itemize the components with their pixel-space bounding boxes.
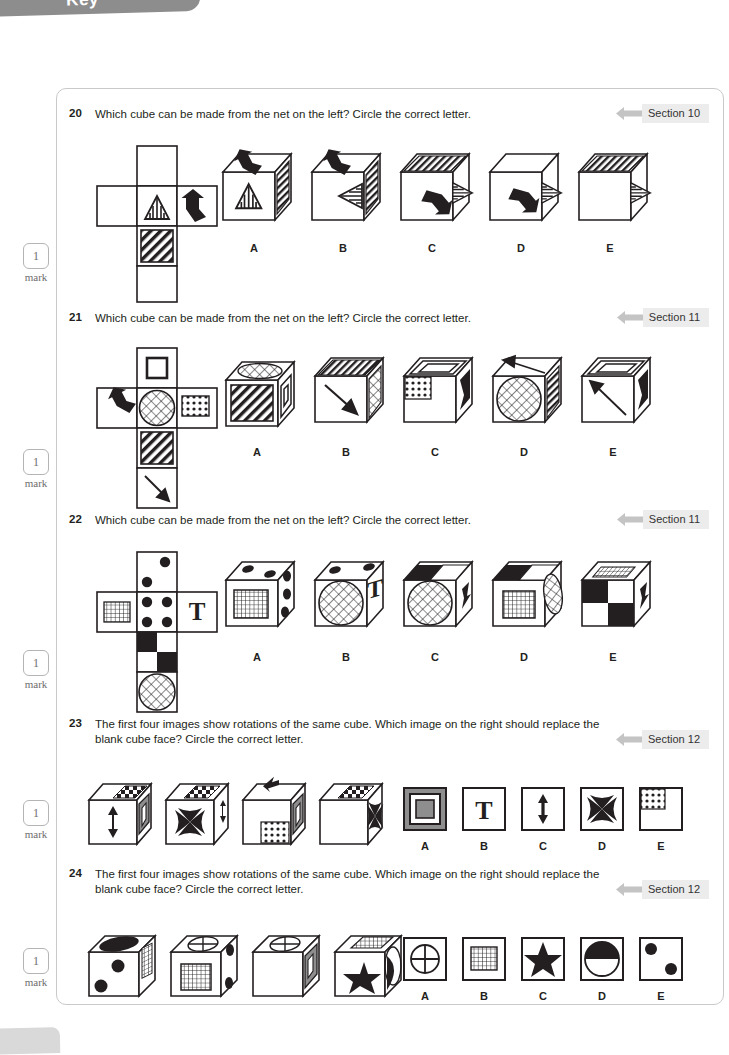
question-23-cube-1	[85, 778, 165, 856]
question-24-number: 24	[69, 867, 82, 879]
question-21: 21 Which cube can be made from the net o…	[57, 311, 723, 498]
question-20: 20 Which cube can be made from the net o…	[57, 107, 723, 297]
question-23-figures: T A B C	[57, 746, 723, 876]
question-24-choice-a[interactable]	[402, 936, 448, 982]
question-23-cube-2	[162, 778, 242, 856]
question-20-figures: A B C D E	[57, 122, 723, 297]
question-24-cube-2	[167, 928, 252, 1008]
question-21-section-label: Section 11	[643, 308, 709, 327]
question-20-net	[77, 144, 237, 304]
option-letter-d: D	[520, 446, 528, 458]
question-23-choice-b[interactable]: T	[461, 786, 507, 832]
question-24: 24 The first four images show rotations …	[57, 867, 723, 1026]
question-20-header: 20 Which cube can be made from the net o…	[57, 107, 723, 122]
question-23-choice-d[interactable]	[579, 786, 625, 832]
page-header-tab-label: Key	[66, 0, 99, 11]
question-20-choice-a[interactable]	[217, 148, 305, 230]
option-letter-b: B	[342, 651, 350, 663]
question-23-number: 23	[69, 717, 82, 729]
mark-label: mark	[13, 976, 59, 988]
option-letter-d: D	[517, 242, 525, 254]
option-letter-a: A	[253, 651, 261, 663]
question-22-text: Which cube can be made from the net on t…	[95, 513, 615, 528]
question-20-section-tag: Section 10	[616, 104, 709, 123]
question-22-section-label: Section 11	[643, 510, 709, 529]
question-22: 22 Which cube can be made from the net o…	[57, 513, 723, 700]
option-letter-d: D	[598, 990, 606, 1002]
question-24-header: 24 The first four images show rotations …	[57, 867, 723, 896]
arrow-left-icon	[616, 882, 642, 897]
question-24-choice-e[interactable]	[638, 936, 684, 982]
mark-label: mark	[13, 828, 59, 840]
option-letter-b: B	[339, 242, 347, 254]
svg-text:T: T	[475, 796, 492, 825]
question-22-choice-e[interactable]	[576, 554, 664, 636]
mark-number: 1	[23, 449, 49, 475]
option-letter-c: C	[539, 840, 547, 852]
question-23-choice-e[interactable]	[638, 786, 684, 832]
mark-number: 1	[23, 800, 49, 826]
question-22-choice-b[interactable]: T	[309, 554, 397, 636]
question-24-choice-d[interactable]	[579, 936, 625, 982]
question-20-choice-c[interactable]	[395, 148, 483, 230]
question-23-choice-c[interactable]	[520, 786, 566, 832]
mark-number: 1	[23, 243, 49, 269]
question-20-number: 20	[69, 107, 82, 119]
question-21-choice-c[interactable]	[398, 350, 486, 432]
question-20-section-label: Section 10	[642, 104, 709, 123]
option-letter-d: D	[598, 840, 606, 852]
question-24-figures: A B C D E	[57, 896, 723, 1026]
question-23-cube-3	[239, 778, 319, 856]
question-21-figures: A B C D E	[57, 326, 723, 498]
question-21-header: 21 Which cube can be made from the net o…	[57, 311, 723, 326]
page-footer-tab	[0, 1027, 60, 1055]
option-letter-e: E	[609, 651, 616, 663]
question-22-header: 22 Which cube can be made from the net o…	[57, 513, 723, 528]
question-22-number: 22	[69, 513, 82, 525]
question-20-choice-b[interactable]	[306, 148, 394, 230]
option-letter-b: B	[480, 840, 488, 852]
question-23-cube-4	[316, 778, 396, 856]
question-panel: 20 Which cube can be made from the net o…	[56, 88, 724, 1005]
question-24-cube-3	[249, 928, 334, 1008]
question-23-header: 23 The first four images show rotations …	[57, 717, 723, 746]
option-letter-a: A	[250, 242, 258, 254]
question-21-text: Which cube can be made from the net on t…	[95, 311, 615, 326]
question-22-choice-a[interactable]	[220, 554, 308, 636]
option-letter-c: C	[431, 446, 439, 458]
question-22-figures: T	[57, 528, 723, 700]
option-letter-e: E	[606, 242, 613, 254]
question-22-choice-c[interactable]	[398, 554, 486, 636]
question-20-choice-d[interactable]	[484, 148, 572, 230]
option-letter-e: E	[609, 446, 616, 458]
mark-label: mark	[13, 271, 59, 283]
question-21-choice-d[interactable]	[487, 350, 575, 432]
svg-text:T: T	[189, 598, 206, 625]
option-letter-c: C	[428, 242, 436, 254]
arrow-left-icon	[617, 512, 643, 527]
mark-number: 1	[23, 948, 49, 974]
mark-number: 1	[23, 650, 49, 676]
mark-label: mark	[13, 477, 59, 489]
arrow-left-icon	[616, 732, 642, 747]
question-20-choice-e[interactable]	[573, 148, 661, 230]
question-21-choice-b[interactable]	[309, 350, 397, 432]
question-23-choice-a[interactable]	[402, 786, 448, 832]
question-22-choice-d[interactable]	[487, 554, 575, 636]
mark-label: mark	[13, 678, 59, 690]
question-21-choice-e[interactable]	[576, 350, 664, 432]
question-23-text: The first four images show rotations of …	[95, 717, 615, 746]
question-24-choice-b[interactable]	[461, 936, 507, 982]
question-21-choice-a[interactable]	[220, 354, 308, 436]
mark-chip: 1 mark	[13, 948, 59, 988]
option-letter-a: A	[421, 990, 429, 1002]
question-21-section-tag: Section 11	[617, 308, 709, 327]
option-letter-b: B	[480, 990, 488, 1002]
option-letter-c: C	[539, 990, 547, 1002]
question-24-cube-1	[85, 928, 170, 1008]
option-letter-e: E	[657, 840, 664, 852]
option-letter-e: E	[657, 990, 664, 1002]
question-24-choice-c[interactable]	[520, 936, 566, 982]
question-20-text: Which cube can be made from the net on t…	[95, 107, 615, 122]
question-23: 23 The first four images show rotations …	[57, 717, 723, 876]
